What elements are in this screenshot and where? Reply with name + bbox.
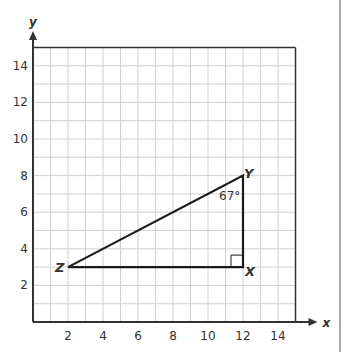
x-tick-label: 6 [134,329,142,343]
y-axis-arrow-icon [29,31,37,40]
axes: xy [29,15,332,330]
coordinate-plane-svg: xy 24681012142468101214 ZXY67° [0,0,341,352]
right-angle-marker-icon [231,255,243,267]
y-tick-label: 10 [13,132,28,146]
grid-lines [33,48,296,323]
x-axis-arrow-icon [309,318,318,326]
vertex-label-y: Y [244,166,255,181]
x-tick-label: 4 [99,329,107,343]
plot-frame [33,48,296,323]
x-tick-label: 14 [270,329,285,343]
x-axis-label: x [322,316,332,330]
x-tick-label: 12 [235,329,250,343]
y-tick-label: 12 [13,95,28,109]
angle-label-y: 67° [219,189,240,203]
x-tick-label: 2 [64,329,72,343]
y-axis-label: y [29,15,38,29]
y-tick-label: 2 [20,278,28,292]
tick-labels: 24681012142468101214 [13,59,286,343]
y-tick-label: 8 [20,169,28,183]
x-tick-label: 8 [169,329,177,343]
x-tick-label: 10 [200,329,215,343]
vertex-label-z: Z [54,260,65,275]
vertex-label-x: X [244,264,256,279]
y-tick-label: 4 [20,242,28,256]
y-tick-label: 6 [20,205,28,219]
y-tick-label: 14 [13,59,28,73]
coordinate-plane-diagram: xy 24681012142468101214 ZXY67° [0,0,341,352]
